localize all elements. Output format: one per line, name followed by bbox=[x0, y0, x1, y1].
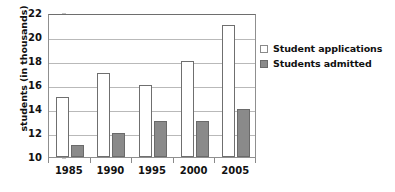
x-axis-tick-mark bbox=[255, 158, 256, 163]
bar-students-admitted-1990 bbox=[112, 133, 125, 157]
bar-student-applications-2005 bbox=[222, 25, 235, 157]
x-axis-tick-label-1995: 1995 bbox=[131, 165, 173, 176]
bar-student-applications-1990 bbox=[97, 73, 110, 157]
legend-label: Student applications bbox=[273, 43, 382, 54]
x-axis-tick-label-1990: 1990 bbox=[89, 165, 131, 176]
bar-chart: students (in thousands) 10121416182022 1… bbox=[0, 0, 395, 192]
bar-students-admitted-1985 bbox=[71, 145, 84, 157]
legend-item-student-applications: Student applications bbox=[260, 42, 394, 55]
x-axis-tick-marks bbox=[48, 158, 256, 164]
bars-layer bbox=[49, 15, 255, 157]
bar-student-applications-2000 bbox=[181, 61, 194, 157]
legend-label: Students admitted bbox=[273, 58, 372, 69]
bar-students-admitted-1995 bbox=[154, 121, 167, 157]
bar-student-applications-1985 bbox=[56, 97, 69, 157]
x-axis-tick-label-1985: 1985 bbox=[48, 165, 90, 176]
x-axis-tick-mark bbox=[173, 158, 174, 163]
x-axis-tick-label-2005: 2005 bbox=[214, 165, 256, 176]
chart-legend: Student applicationsStudents admitted bbox=[260, 42, 394, 72]
bar-students-admitted-2000 bbox=[196, 121, 209, 157]
y-axis-tick-label: 16 bbox=[18, 81, 42, 91]
y-axis-tick-label: 22 bbox=[18, 9, 42, 19]
x-axis-tick-mark bbox=[90, 158, 91, 163]
y-axis-tick-label: 12 bbox=[18, 129, 42, 139]
x-axis-tick-mark bbox=[131, 158, 132, 163]
x-axis-tick-labels: 19851990199520002005 bbox=[48, 165, 256, 181]
filled-square-swatch bbox=[260, 60, 268, 68]
y-axis-tick-label: 18 bbox=[18, 57, 42, 67]
y-axis-tick-labels: 10121416182022 bbox=[18, 14, 42, 158]
y-axis-tick-label: 20 bbox=[18, 33, 42, 43]
x-axis-tick-mark bbox=[48, 158, 49, 163]
y-axis-tick-label: 14 bbox=[18, 105, 42, 115]
x-axis-tick-label-2000: 2000 bbox=[173, 165, 215, 176]
bar-students-admitted-2005 bbox=[237, 109, 250, 157]
open-square-swatch bbox=[260, 45, 268, 53]
legend-item-students-admitted: Students admitted bbox=[260, 57, 394, 70]
bar-student-applications-1995 bbox=[139, 85, 152, 157]
plot-area bbox=[48, 14, 256, 158]
x-axis-tick-mark bbox=[214, 158, 215, 163]
y-axis-tick-label: 10 bbox=[18, 153, 42, 163]
